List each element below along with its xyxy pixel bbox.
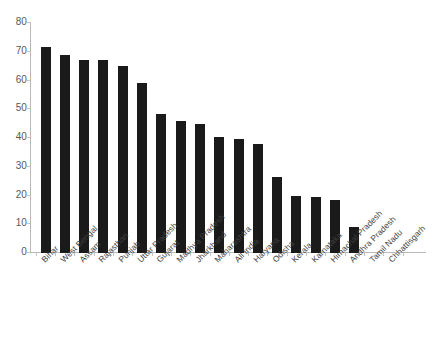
bar-chart: 01020304050607080 BiharWest BengalAssamR… (0, 0, 438, 338)
y-axis-tick-mark (27, 108, 30, 109)
y-axis-tick-mark (27, 22, 30, 23)
y-axis-tick-label: 60 (0, 75, 27, 85)
bar (60, 55, 70, 253)
y-axis-tick-label: 80 (0, 17, 27, 27)
y-axis-tick-label: 10 (0, 218, 27, 228)
y-axis-tick-label: 50 (0, 103, 27, 113)
bar (176, 121, 186, 253)
y-axis-tick-mark (27, 223, 30, 224)
bar (79, 60, 89, 253)
y-axis-tick-mark (27, 137, 30, 138)
bar (118, 66, 128, 253)
y-axis-tick-label: 20 (0, 190, 27, 200)
bar (98, 60, 108, 253)
bar (41, 47, 51, 253)
y-axis-tick-label: 30 (0, 161, 27, 171)
y-axis-tick-label: 70 (0, 46, 27, 56)
bar (137, 83, 147, 253)
y-axis-tick-mark (27, 166, 30, 167)
y-axis-tick-mark (27, 51, 30, 52)
y-axis-tick-mark (27, 80, 30, 81)
y-axis-tick-label: 40 (0, 132, 27, 142)
y-axis-tick-mark (27, 195, 30, 196)
x-axis-category-labels: BiharWest BengalAssamRajasthanPunjabUtta… (0, 252, 438, 338)
